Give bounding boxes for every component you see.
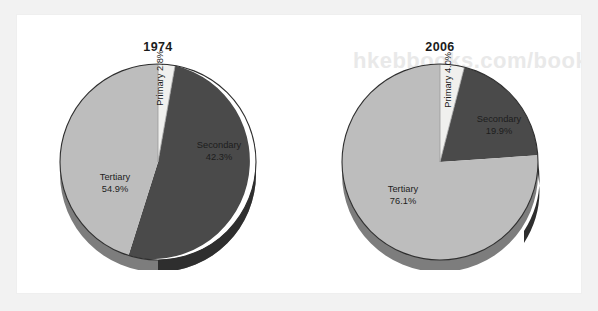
pie-top-2006 [342, 64, 538, 260]
pie-chart-1974: 1974 [17, 15, 299, 293]
scanned-page-frame: hkebbooks.com/bookshop 1974 [0, 0, 598, 311]
chart-page: hkebbooks.com/bookshop 1974 [17, 15, 581, 293]
chart-title-1974: 1974 [17, 40, 299, 54]
pie-graphic-2006: Primary 4.0% Secondary 19.9% Tertiary 76… [336, 62, 544, 270]
pie-graphic-1974: Primary 2.8% Secondary 42.3% Tertiary 54… [54, 62, 262, 270]
pie-svg-2006 [336, 62, 544, 270]
chart-title-2006: 2006 [299, 40, 581, 54]
pie-svg-1974 [54, 62, 262, 270]
pie-chart-2006: 2006 [299, 15, 581, 293]
